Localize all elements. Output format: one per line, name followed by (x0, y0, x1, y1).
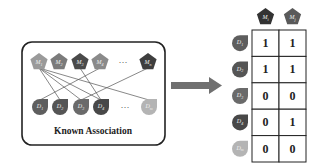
matrix-cell: 1 (279, 109, 306, 135)
association-diagram: M1M2M3M4Mn D1D2D3D4Dm ··· ··· Known Asso… (0, 0, 323, 167)
matrix-row-headers: D1D2D3D4Dm (232, 35, 248, 157)
known-association-caption: Known Association (54, 126, 133, 136)
cell-value: 1 (263, 62, 269, 76)
row-header-d2: D2 (232, 62, 248, 78)
disease-node-d4: D4 (93, 99, 109, 115)
disease-node-d2: D2 (52, 99, 68, 115)
row-header-d3: D3 (232, 88, 248, 104)
cell-value: 0 (290, 89, 296, 103)
row-label: D4 (236, 119, 243, 126)
row-label: D2 (236, 66, 243, 73)
transform-arrow-icon (171, 77, 222, 94)
cell-value: 1 (263, 36, 269, 50)
cell-value: 1 (290, 115, 296, 129)
column-header-mi: Mi (257, 8, 274, 24)
matrix-cell: 1 (279, 56, 306, 82)
matrix-cell: 1 (252, 56, 279, 82)
disease-ellipsis: ··· (121, 102, 130, 112)
matrix-cell: 0 (252, 83, 279, 109)
association-matrix: 1111000100 (252, 30, 306, 162)
disease-node-dm: Dm (141, 99, 157, 115)
cell-value: 0 (263, 142, 269, 156)
cell-value: 0 (290, 142, 296, 156)
column-header-mj: Mj (284, 8, 301, 24)
cell-value: 0 (263, 89, 269, 103)
row-header-d4: D4 (232, 114, 248, 130)
matrix-cell: 0 (279, 136, 306, 162)
row-label: D1 (236, 40, 243, 47)
disease-node-d3: D3 (73, 99, 89, 115)
cell-value: 0 (263, 115, 269, 129)
mirna-ellipsis: ··· (119, 57, 128, 67)
matrix-column-headers: MiMj (257, 8, 301, 24)
row-header-dm: Dm (232, 141, 248, 157)
row-header-d1: D1 (232, 35, 248, 51)
cell-value: 1 (290, 62, 296, 76)
matrix-cell: 0 (279, 83, 306, 109)
matrix-cell: 1 (252, 30, 279, 56)
matrix-cell: 0 (252, 136, 279, 162)
disease-node-d1: D1 (32, 99, 48, 115)
matrix-cell: 0 (252, 109, 279, 135)
matrix-cell: 1 (279, 30, 306, 56)
cell-value: 1 (290, 36, 296, 50)
